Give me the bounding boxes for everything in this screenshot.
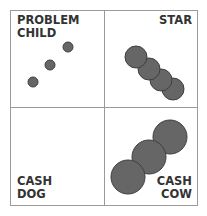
circle xyxy=(28,77,38,87)
problem-child-circles xyxy=(28,42,73,87)
problem-child-label: PROBLEM CHILD xyxy=(17,14,79,40)
growth-share-matrix: PROBLEM CHILD STAR CASH DOG CASH COW xyxy=(0,0,207,216)
label-line: STAR xyxy=(159,14,192,27)
circle xyxy=(45,60,55,70)
label-line: DOG xyxy=(17,188,52,201)
star-circles xyxy=(125,46,184,100)
circle xyxy=(111,160,145,194)
cash-dog-label: CASH DOG xyxy=(17,175,52,201)
cash-cow-label: CASH COW xyxy=(157,175,192,201)
circle xyxy=(125,46,147,68)
label-line: COW xyxy=(157,188,192,201)
star-label: STAR xyxy=(159,14,192,27)
label-line: CHILD xyxy=(17,27,79,40)
circle xyxy=(63,42,73,52)
